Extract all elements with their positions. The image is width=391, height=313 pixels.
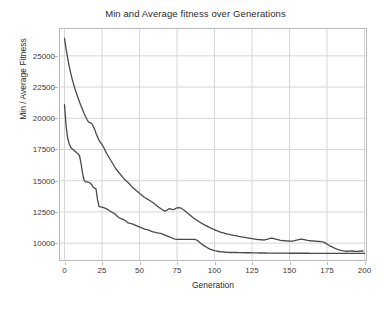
x-tick-mark — [365, 262, 366, 265]
x-tick-mark — [177, 262, 178, 265]
x-tick-label: 200 — [345, 266, 385, 275]
x-tick-label: 150 — [270, 266, 310, 275]
y-axis-label: Min / Average Fitness — [18, 4, 28, 154]
y-tick-mark — [55, 87, 58, 88]
x-tick-label: 125 — [232, 266, 272, 275]
y-tick-mark — [55, 56, 58, 57]
y-tick-label: 22500 — [9, 83, 55, 92]
x-gridlines — [65, 29, 365, 260]
x-tick-label: 25 — [82, 266, 122, 275]
x-tick-mark — [102, 262, 103, 265]
y-tick-label: 12500 — [9, 207, 55, 216]
x-tick-mark — [215, 262, 216, 265]
chart-figure: Min and Average fitness over Generations… — [0, 0, 391, 313]
y-gridlines — [60, 56, 366, 243]
x-tick-mark — [327, 262, 328, 265]
x-tick-label: 50 — [120, 266, 160, 275]
series-line-average — [65, 38, 364, 251]
x-tick-mark — [252, 262, 253, 265]
y-tick-mark — [55, 243, 58, 244]
y-tick-label: 17500 — [9, 145, 55, 154]
y-tick-mark — [55, 212, 58, 213]
x-tick-mark — [290, 262, 291, 265]
y-tick-mark — [55, 118, 58, 119]
x-tick-mark — [65, 262, 66, 265]
x-tick-label: 175 — [307, 266, 347, 275]
y-tick-label: 25000 — [9, 51, 55, 60]
x-tick-label: 75 — [157, 266, 197, 275]
x-tick-label: 0 — [45, 266, 85, 275]
y-axis-tick-labels: 10000125001500017500200002250025000 — [5, 28, 55, 261]
x-tick-mark — [140, 262, 141, 265]
plot-area — [59, 28, 367, 261]
x-tick-label: 100 — [195, 266, 235, 275]
x-axis-label: Generation — [59, 280, 367, 290]
y-tick-label: 10000 — [9, 239, 55, 248]
chart-title: Min and Average fitness over Generations — [0, 8, 391, 19]
plot-svg — [60, 29, 366, 260]
y-tick-mark — [55, 149, 58, 150]
y-tick-label: 15000 — [9, 176, 55, 185]
y-tick-mark — [55, 181, 58, 182]
y-tick-label: 20000 — [9, 114, 55, 123]
x-axis-tick-labels: 0255075100125150175200 — [59, 266, 367, 280]
